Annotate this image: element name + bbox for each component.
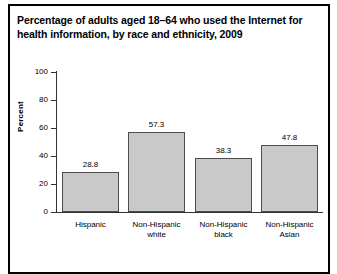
y-axis-tick [51, 212, 56, 213]
bar [62, 172, 119, 212]
y-axis-line [56, 71, 57, 213]
x-axis-category-label: Non-HispanicAsian [249, 220, 330, 240]
y-axis-tick-label: 80 [8, 96, 48, 104]
y-axis-tick-label: 40 [8, 152, 48, 160]
category-label-line: Non-Hispanic [265, 220, 313, 229]
category-label-line: Non-Hispanic [199, 220, 247, 229]
y-axis-tick [51, 128, 56, 129]
bar [128, 132, 185, 212]
y-axis-tick [51, 100, 56, 101]
y-axis-tick [51, 156, 56, 157]
chart-title: Percentage of adults aged 18–64 who used… [17, 13, 317, 41]
y-axis-tick-label: 20 [8, 180, 48, 188]
bar [195, 158, 252, 212]
bar-value-label: 47.8 [251, 133, 328, 142]
category-label-line: black [214, 230, 233, 239]
y-axis-tick [51, 72, 56, 73]
y-axis-tick-label: 0 [8, 208, 48, 216]
bar-value-label: 28.8 [52, 160, 129, 169]
y-axis-tick-label: 60 [8, 124, 48, 132]
x-axis-line [56, 212, 323, 213]
category-label-line: Non-Hispanic [132, 220, 180, 229]
bar-value-label: 57.3 [118, 120, 195, 129]
category-label-line: Hispanic [75, 220, 106, 229]
y-axis-tick [51, 184, 56, 185]
y-axis-tick-label: 100 [8, 68, 48, 76]
category-label-line: Asian [279, 230, 299, 239]
bar [261, 145, 318, 212]
category-label-line: white [147, 230, 166, 239]
bar-value-label: 38.3 [185, 146, 262, 155]
